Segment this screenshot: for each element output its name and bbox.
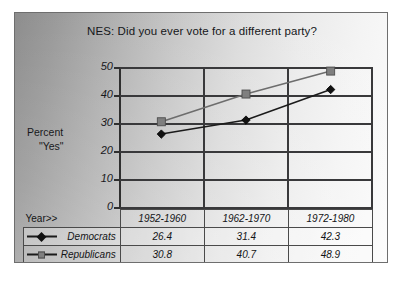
data-point-republicans (327, 67, 335, 75)
table-cell: 31.4 (204, 228, 288, 246)
data-table: Year>> 1952-1960 1962-1970 1972-1980 Dem… (23, 209, 373, 263)
data-point-republicans (242, 90, 250, 98)
table-row: Democrats 26.4 31.4 42.3 (24, 228, 373, 246)
column-header: 1962-1970 (204, 210, 288, 228)
chart-screenshot: NES: Did you ever vote for a different p… (0, 0, 402, 283)
y-axis-tick-label: 40 (87, 88, 113, 100)
chart-title: NES: Did you ever vote for a different p… (15, 25, 388, 37)
table-header-row: Year>> 1952-1960 1962-1970 1972-1980 (24, 210, 373, 228)
data-point-democrats (242, 116, 250, 124)
y-axis-tick-label: 10 (87, 172, 113, 184)
series-lines (119, 68, 373, 208)
diamond-marker-icon (27, 232, 57, 241)
plot-area: 01020304050 (119, 68, 373, 208)
series-label: Republicans (61, 249, 116, 260)
table-cell: 26.4 (120, 228, 204, 246)
y-axis-tick-label: 30 (87, 116, 113, 128)
data-point-democrats (326, 85, 334, 93)
series-label: Democrats (67, 231, 115, 242)
data-point-democrats (157, 130, 165, 138)
column-header: 1952-1960 (120, 210, 204, 228)
table-row: Republicans 30.8 40.7 48.9 (24, 246, 373, 264)
data-point-republicans (157, 118, 165, 126)
y-axis-tick-label: 50 (87, 60, 113, 72)
chart-frame: NES: Did you ever vote for a different p… (14, 12, 388, 263)
y-axis-tick-label: 20 (87, 144, 113, 156)
table-cell: 48.9 (288, 246, 372, 264)
year-row-label: Year>> (24, 210, 121, 228)
table-cell: 42.3 (288, 228, 372, 246)
table-cell: 40.7 (204, 246, 288, 264)
square-marker-icon (27, 250, 57, 259)
table-cell: 30.8 (120, 246, 204, 264)
legend-item-democrats: Democrats (24, 228, 121, 246)
column-header: 1972-1980 (288, 210, 372, 228)
y-axis-tick-labels: 01020304050 (81, 68, 113, 208)
legend-item-republicans: Republicans (24, 246, 121, 264)
